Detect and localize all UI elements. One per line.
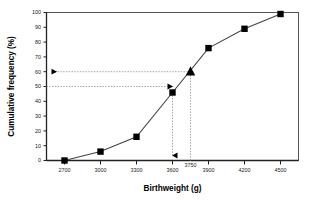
ytick-label: 0 — [38, 157, 41, 163]
ytick-label: 40 — [35, 98, 41, 104]
ytick-label: 30 — [35, 113, 41, 119]
xtick-label: 3600 — [167, 167, 179, 173]
data-point-marker — [133, 134, 139, 140]
ytick-label: 20 — [35, 128, 41, 134]
data-point-marker — [205, 45, 211, 51]
ytick-label: 10 — [35, 143, 41, 149]
data-point-marker — [241, 26, 247, 32]
data-point-marker — [169, 89, 175, 95]
cumulative-frequency-chart: 0 10 20 30 40 50 60 70 80 90 100 2700 30… — [0, 0, 313, 200]
y-axis-title: Cumulative frequency (%) — [7, 36, 16, 137]
data-point-marker — [277, 11, 283, 17]
ytick-label: 80 — [35, 39, 41, 45]
xtick-label-3750: 3750 — [185, 162, 197, 168]
xtick-label: 3300 — [131, 167, 143, 173]
xtick-label: 4500 — [275, 167, 287, 173]
y-axis-tick-labels: 0 10 20 30 40 50 60 70 80 90 100 — [32, 9, 41, 163]
x-axis-title: Birthweight (g) — [144, 184, 202, 193]
xtick-label: 2700 — [59, 167, 71, 173]
data-point-marker — [61, 157, 67, 163]
ytick-label: 60 — [35, 69, 41, 75]
xtick-label: 4200 — [239, 167, 251, 173]
xtick-label: 3000 — [95, 167, 107, 173]
chart-canvas: 0 10 20 30 40 50 60 70 80 90 100 2700 30… — [0, 0, 313, 200]
ytick-label: 100 — [32, 9, 41, 15]
ytick-label: 90 — [35, 24, 41, 30]
ytick-label: 50 — [35, 83, 41, 89]
ytick-label: 70 — [35, 54, 41, 60]
data-point-marker — [97, 148, 103, 154]
median-readout-triangle-marker — [186, 66, 195, 75]
x-axis-tick-labels: 2700 3000 3300 3600 3900 4200 4500 — [59, 167, 287, 173]
xtick-label: 3900 — [203, 167, 215, 173]
